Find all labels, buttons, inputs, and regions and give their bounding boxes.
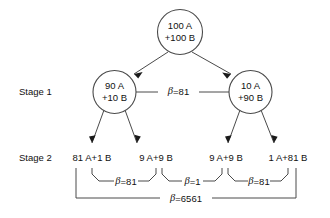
inner-brace-1: β=81 [92, 168, 156, 186]
edge-right-to-leaf3 [225, 110, 240, 143]
beta-value: =81 [121, 175, 137, 186]
outer-brace-label: β=6561 [169, 192, 202, 203]
edge-left-to-leaf1 [89, 110, 104, 143]
inner-brace-2-label: β=1 [183, 175, 200, 186]
stage-2-label: Stage 2 [19, 152, 52, 163]
edge-root-to-left [134, 52, 168, 79]
edge-left-to-leaf2 [125, 110, 141, 143]
inner-brace-1-label: β=81 [114, 175, 136, 186]
inner-brace-3-label: β=81 [247, 175, 269, 186]
node-stage1-right-line2: +90 B [238, 92, 263, 103]
node-root: 100 A +100 B [158, 10, 203, 55]
node-stage1-left-line2: +10 B [102, 92, 127, 103]
diagram-canvas: 100 A +100 B 90 A +10 B 10 A +90 B Stage… [0, 0, 330, 218]
leaf-node-3: 9 A+9 B [209, 152, 243, 163]
beta-value: =81 [173, 86, 189, 97]
node-stage1-left-line1: 90 A [105, 80, 125, 91]
beta-value: =6561 [175, 192, 202, 203]
edge-root-to-right [192, 52, 231, 79]
leaf-node-2: 9 A+9 B [139, 152, 173, 163]
node-root-line2: +100 B [165, 32, 195, 43]
beta-value: =1 [190, 175, 201, 186]
node-stage1-right: 10 A +90 B [229, 71, 272, 114]
node-stage1-right-line1: 10 A [241, 80, 261, 91]
leaf-node-1: 81 A+1 B [73, 152, 112, 163]
inner-brace-2: β=1 [162, 168, 222, 186]
tree-diagram: 100 A +100 B 90 A +10 B 10 A +90 B Stage… [0, 0, 330, 218]
edge-right-to-leaf4 [261, 110, 278, 143]
stage1-link-beta-label: β=81 [167, 85, 189, 96]
node-stage1-left: 90 A +10 B [93, 71, 136, 114]
beta-value: =81 [254, 175, 270, 186]
inner-brace-3: β=81 [228, 168, 288, 186]
leaf-node-4: 1 A+81 B [269, 152, 308, 163]
stage-1-label: Stage 1 [19, 86, 52, 97]
node-root-line1: 100 A [168, 20, 193, 31]
